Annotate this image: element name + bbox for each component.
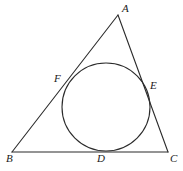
- vertex-label-c: C: [170, 153, 177, 164]
- inscribed-circle: [62, 63, 150, 151]
- triangle-side-ab: [12, 15, 118, 152]
- vertex-label-b: B: [6, 153, 13, 164]
- geometry-figure: A B C D E F: [0, 0, 183, 171]
- tangent-label-f: F: [54, 73, 61, 84]
- tangent-label-e: E: [150, 80, 157, 91]
- tangent-label-d: D: [97, 153, 105, 164]
- vertex-label-a: A: [122, 3, 129, 14]
